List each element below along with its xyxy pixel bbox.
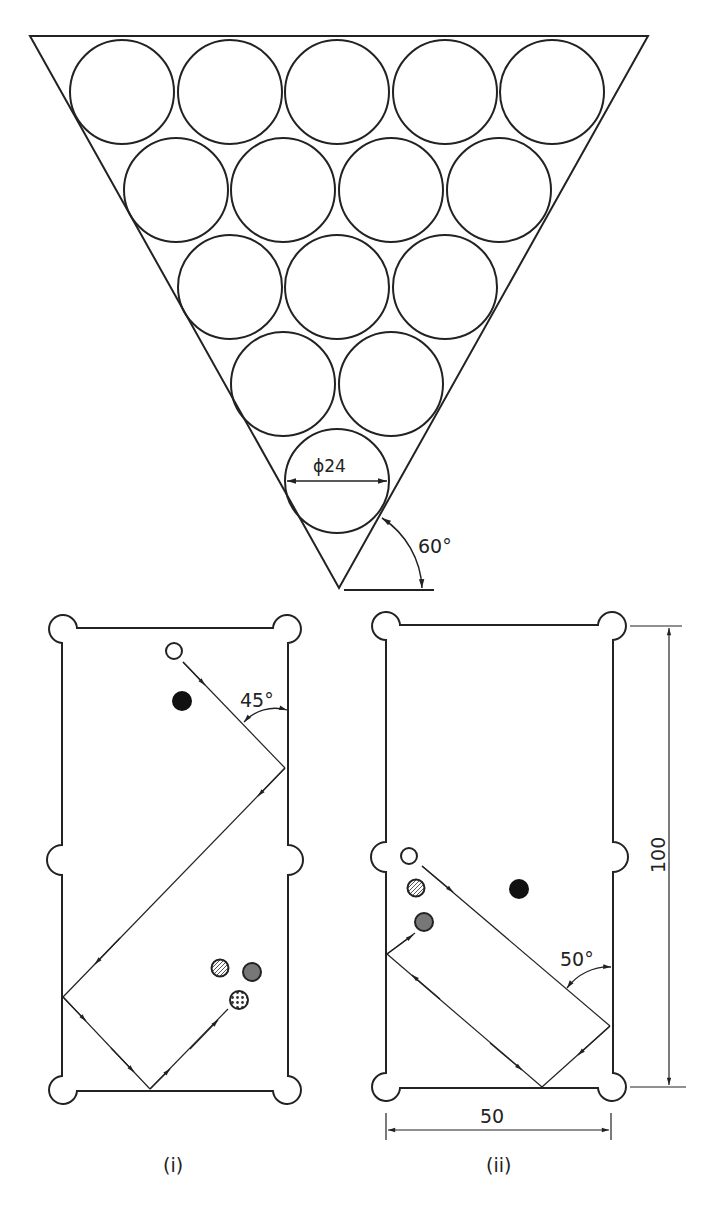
caption-i: (i) [163, 1154, 183, 1176]
caption-ii: (ii) [486, 1154, 511, 1176]
angle-label-60: 60° [418, 535, 452, 557]
shot-path-i [63, 662, 285, 1089]
striped-ball-i [212, 960, 229, 977]
shot-path-ii [387, 866, 610, 1087]
striped-ball-ii [408, 880, 425, 897]
black-ball-i [172, 691, 192, 711]
grey-ball-ii [415, 913, 433, 931]
grey-ball-i [243, 963, 261, 981]
width-label: 50 [480, 1105, 504, 1127]
black-ball-ii [509, 879, 529, 899]
cue-ball-ii [401, 848, 417, 864]
height-label: 100 [647, 837, 669, 873]
diameter-label: ϕ24 [313, 456, 346, 476]
angle-label-45: 45° [240, 689, 274, 711]
cue-ball-i [166, 643, 182, 659]
angle-arc-60 [382, 518, 422, 588]
triangle-rack [30, 36, 648, 588]
angle-label-50: 50° [560, 948, 594, 970]
diagram-canvas: ϕ24 60° 45° (i) [0, 0, 719, 1206]
dotted-ball-i [230, 991, 248, 1009]
angle-arc-50 [567, 967, 611, 988]
